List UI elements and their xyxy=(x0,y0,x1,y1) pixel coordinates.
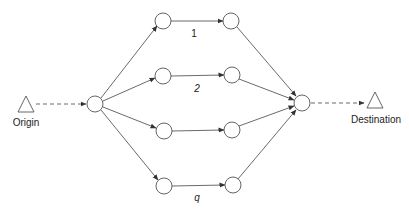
pathq-edge xyxy=(172,185,225,186)
path2-node-a xyxy=(155,68,171,84)
path3-node-a xyxy=(156,123,172,139)
destination-triangle-icon xyxy=(367,92,383,108)
path2-node-b xyxy=(224,67,240,83)
pathq-node-b xyxy=(225,177,241,193)
edge-2-sink xyxy=(239,79,294,100)
path1-label: 1 xyxy=(191,28,197,39)
path1-node-a xyxy=(155,13,171,29)
path3-edge xyxy=(172,130,224,131)
source-node xyxy=(87,96,103,112)
edge-3-sink xyxy=(239,106,294,126)
path1-node-b xyxy=(223,13,239,29)
pathq-label: q xyxy=(194,192,200,203)
edge-1-sink xyxy=(237,27,296,96)
edge-source-q xyxy=(101,110,158,180)
path2-label: 2 xyxy=(193,83,200,94)
path3-node-b xyxy=(224,122,240,138)
origin-triangle-icon xyxy=(18,96,34,112)
destination-label: Destination xyxy=(351,114,401,125)
edge-source-2 xyxy=(103,78,155,101)
edge-source-3 xyxy=(103,107,156,128)
edge-q-sink xyxy=(238,110,296,179)
pathq-node-a xyxy=(156,178,172,194)
origin-label: Origin xyxy=(13,117,40,128)
sink-node xyxy=(294,95,310,111)
edge-source-1 xyxy=(101,26,157,98)
path2-edge xyxy=(171,75,224,76)
network-diagram: Origin 1 2 q Destination xyxy=(0,0,409,212)
